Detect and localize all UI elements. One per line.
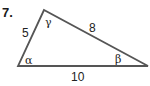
triangle-shape — [18, 10, 148, 66]
side-bottom-label: 10 — [71, 71, 84, 83]
angle-beta-label: β — [115, 54, 121, 65]
side-right-label: 8 — [89, 22, 96, 34]
angle-alpha-label: α — [25, 55, 32, 66]
side-left-label: 5 — [22, 27, 29, 39]
angle-gamma-label: γ — [45, 17, 52, 28]
